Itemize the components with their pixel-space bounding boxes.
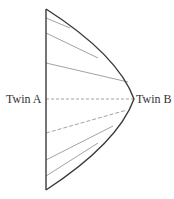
simultaneity-line-3	[46, 63, 128, 82]
twin-b-worldline	[46, 9, 134, 190]
simultaneity-line-2	[46, 33, 98, 58]
twin-paradox-diagram: Twin A Twin B	[0, 0, 174, 199]
twin-b-label: Twin B	[136, 92, 172, 106]
twin-a-label: Twin A	[6, 92, 42, 106]
simultaneity-line-5	[46, 110, 127, 133]
